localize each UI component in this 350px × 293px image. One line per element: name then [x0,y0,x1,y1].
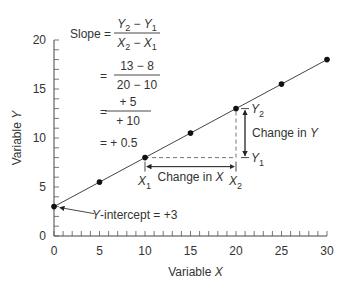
svg-text:20 − 10: 20 − 10 [117,78,158,92]
svg-text:=: = [100,105,107,119]
slope-result: = + 0.5 [100,136,138,150]
y-tick-label: 15 [33,82,47,96]
y-tick-label: 0 [39,229,46,243]
svg-text:+ 10: + 10 [116,114,140,128]
x1-label: X1 [137,174,151,191]
slope-chart: 05101520253005101520Variable XVariable Y… [0,0,350,293]
data-point [279,81,285,87]
change-guides [145,109,249,172]
data-point [233,106,239,112]
x-tick-label: 25 [275,244,289,258]
y2-label: Y2 [251,102,264,119]
x-tick-label: 10 [138,244,152,258]
y-intercept-label: Y-intercept = +3 [92,208,178,222]
y-tick-label: 10 [33,131,47,145]
x-tick-label: 15 [184,244,198,258]
svg-text:Y2 − Y1: Y2 − Y1 [117,17,157,33]
data-point [97,179,103,185]
x-tick-label: 30 [320,244,334,258]
x-tick-label: 5 [96,244,103,258]
x2-label: X2 [228,174,242,191]
slope-fraction-values: 13 − 820 − 10 [114,59,160,92]
svg-text:13 − 8: 13 − 8 [120,59,154,73]
slope-fraction-diff: + 5+ 10 [105,95,151,128]
data-point [142,155,148,161]
data-point [51,204,57,210]
y-axis-title: Variable Y [10,110,24,165]
slope-label: Slope = [70,27,111,41]
svg-text:X2 − X1: X2 − X1 [116,36,157,52]
data-point [324,57,330,63]
x-tick-label: 20 [229,244,243,258]
change-in-x-label: Change in X [157,170,224,184]
svg-text:+ 5: + 5 [119,95,136,109]
x-tick-label: 0 [51,244,58,258]
svg-text:=: = [100,69,107,83]
y-tick-label: 20 [33,33,47,47]
data-point [188,130,194,136]
y1-label: Y1 [251,151,264,168]
change-in-y-label: Change in Y [252,126,319,140]
x-axis-title: Variable X [168,265,223,279]
y-tick-label: 5 [39,180,46,194]
slope-fraction-symbolic: Y2 − Y1X2 − X1 [114,17,160,52]
